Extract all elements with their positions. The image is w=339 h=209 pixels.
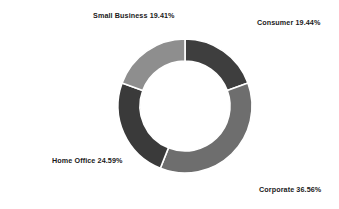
slice-label-home-office: Home Office 24.59% (52, 157, 123, 164)
donut-slice-consumer[interactable] (185, 39, 248, 91)
donut-slice-small-business[interactable] (122, 39, 185, 91)
donut-chart-canvas (0, 0, 339, 209)
slice-label-corporate: Corporate 36.56% (259, 186, 321, 193)
slice-label-consumer: Consumer 19.44% (257, 19, 320, 26)
slice-label-small-business: Small Business 19.41% (93, 12, 175, 19)
donut-slice-home-office[interactable] (118, 83, 168, 168)
donut-slice-corporate[interactable] (160, 83, 252, 173)
donut-slices-group (118, 39, 252, 173)
donut-chart: Small Business 19.41% Consumer 19.44% Ho… (0, 0, 339, 209)
